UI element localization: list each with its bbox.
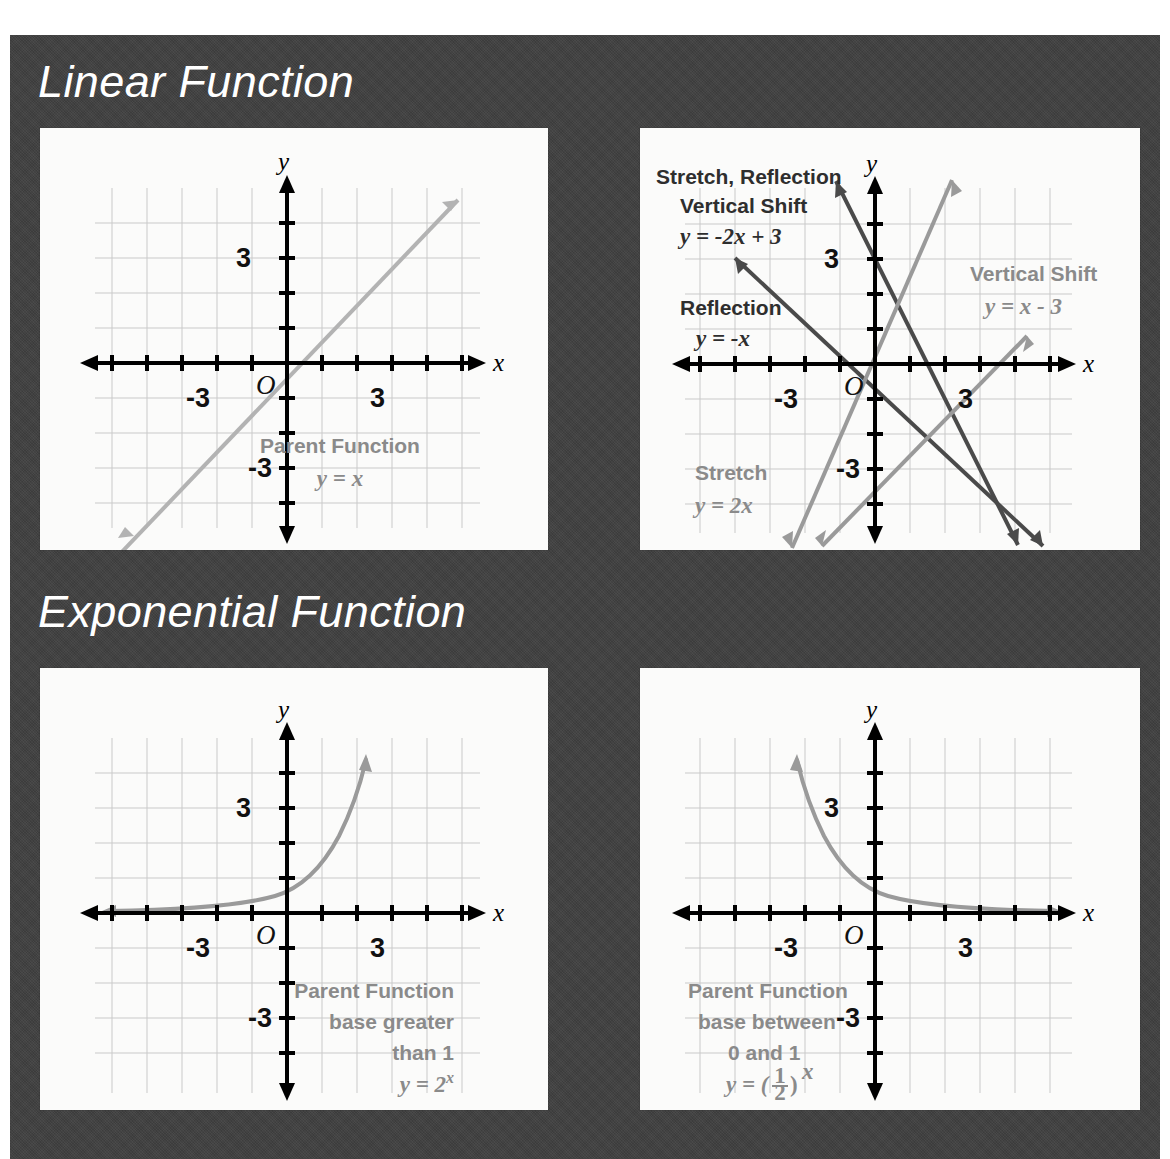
x-tick-negative-3: -3: [186, 933, 210, 963]
svg-text:0 and 1: 0 and 1: [728, 1041, 801, 1064]
svg-text:y = x - 3: y = x - 3: [982, 294, 1062, 319]
y-tick-negative-3: -3: [248, 1003, 272, 1033]
graph-linear-parent: x y O 3 -3 3 -3 Parent Function y = x: [40, 128, 548, 550]
svg-text:than 1: than 1: [392, 1041, 454, 1064]
y-axis-label: y: [275, 148, 290, 175]
origin-label: O: [256, 370, 276, 400]
origin-label: O: [844, 920, 864, 950]
callout-stretch: Stretch y = 2x: [692, 461, 767, 518]
callout-vertical-shift: Vertical Shift y = x - 3: [970, 262, 1097, 319]
svg-text:y = -2x + 3: y = -2x + 3: [677, 224, 782, 249]
reference-page: Linear Function Exponential Function: [0, 0, 1170, 1159]
origin-label: O: [256, 920, 276, 950]
x-tick-negative-3: -3: [774, 933, 798, 963]
svg-text:y = 2x: y = 2x: [397, 1069, 454, 1097]
y-tick-positive-3: 3: [236, 243, 251, 273]
graph-card-exponential-decay: x y O 3 -3 3 -3 Parent Function base bet…: [640, 668, 1140, 1110]
y-axis-label: y: [275, 696, 290, 723]
x-tick-negative-3: -3: [774, 384, 798, 414]
x-tick-positive-3: 3: [370, 933, 385, 963]
caption-equation-fraction: y = ( 1 2 ) x: [723, 1059, 814, 1105]
x-tick-positive-3: 3: [370, 383, 385, 413]
x-tick-negative-3: -3: [186, 383, 210, 413]
svg-text:Parent Function: Parent Function: [294, 979, 454, 1002]
svg-text:): ): [790, 1072, 798, 1097]
svg-text:y = -x: y = -x: [693, 326, 750, 351]
section-title-exponential: Exponential Function: [38, 586, 466, 638]
graph-exponential-growth: x y O 3 -3 3 -3 Parent Function base gre…: [40, 668, 548, 1110]
origin-label: O: [844, 371, 864, 401]
svg-text:Stretch, Reflection: Stretch, Reflection: [656, 165, 842, 188]
caption-equation-exponent: x: [445, 1069, 454, 1086]
x-axis-label: x: [1082, 899, 1094, 926]
axes: [680, 730, 1068, 1093]
caption-equation: y = x: [314, 466, 363, 491]
x-tick-positive-3: 3: [958, 384, 973, 414]
svg-text:y = (: y = (: [723, 1072, 771, 1097]
graph-exponential-decay: x y O 3 -3 3 -3 Parent Function base bet…: [640, 668, 1140, 1110]
y-tick-negative-3: -3: [248, 453, 272, 483]
y-tick-negative-3: -3: [836, 1003, 860, 1033]
caption-exponential-decay: Parent Function base between 0 and 1 y =…: [688, 979, 848, 1105]
svg-text:Vertical Shift: Vertical Shift: [970, 262, 1097, 285]
y-tick-positive-3: 3: [236, 793, 251, 823]
graph-linear-transformations: x y O 3 -3 3 -3 Stretch, Reflection Vert…: [640, 128, 1140, 550]
y-tick-positive-3: 3: [824, 793, 839, 823]
caption-parent-function: Parent Function: [260, 434, 420, 457]
curve-y-equals-2-to-the-x: [102, 754, 372, 917]
section-title-linear: Linear Function: [38, 56, 354, 108]
svg-text:Vertical Shift: Vertical Shift: [680, 194, 807, 217]
callout-stretch-reflection-vertical-shift: Stretch, Reflection Vertical Shift y = -…: [656, 165, 842, 249]
x-tick-positive-3: 3: [958, 933, 973, 963]
caption-equation-base: y = 2: [397, 1072, 446, 1097]
caption-exponential-growth: Parent Function base greater than 1 y = …: [294, 979, 454, 1097]
y-axis-label: y: [863, 696, 878, 723]
graph-card-exponential-growth: x y O 3 -3 3 -3 Parent Function base gre…: [40, 668, 548, 1110]
svg-text:y = 2x: y = 2x: [692, 493, 753, 518]
graph-card-linear-parent: x y O 3 -3 3 -3 Parent Function y = x: [40, 128, 548, 550]
svg-text:Parent Function: Parent Function: [688, 979, 848, 1002]
callout-reflection: Reflection y = -x: [680, 296, 782, 351]
svg-text:Reflection: Reflection: [680, 296, 782, 319]
y-axis-label: y: [863, 150, 878, 177]
x-axis-label: x: [492, 899, 504, 926]
x-axis-label: x: [492, 349, 504, 376]
x-axis-label: x: [1082, 350, 1094, 377]
graph-card-linear-transformations: x y O 3 -3 3 -3 Stretch, Reflection Vert…: [640, 128, 1140, 550]
curve-y-equals-one-half-to-the-x: [790, 754, 1061, 917]
y-tick-negative-3: -3: [836, 454, 860, 484]
y-tick-positive-3: 3: [824, 244, 839, 274]
svg-text:base between: base between: [698, 1010, 836, 1033]
caption-equation-exponent: x: [801, 1059, 814, 1084]
svg-text:Stretch: Stretch: [695, 461, 767, 484]
svg-text:base greater: base greater: [329, 1010, 454, 1033]
fraction-denominator: 2: [774, 1080, 786, 1105]
